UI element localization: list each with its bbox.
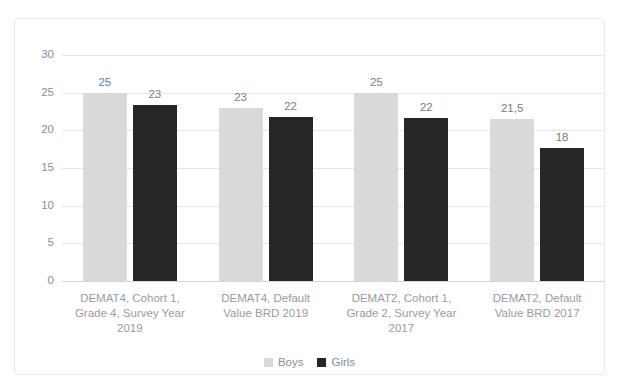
bar-value-label: 23 <box>133 89 177 101</box>
x-axis-category-line: DEMAT4, Cohort 1, <box>54 291 206 306</box>
bar-value-label: 22 <box>269 101 313 113</box>
bar-boys-3 <box>354 93 398 281</box>
axis-baseline <box>62 281 605 282</box>
bar-value-label: 23 <box>219 92 263 104</box>
y-axis-tick-label: 15 <box>24 162 54 174</box>
x-axis-category-line: DEMAT4, Default <box>190 291 342 306</box>
x-axis-category-label: DEMAT4, DefaultValue BRD 2019 <box>190 291 342 321</box>
y-axis-tick-label: 0 <box>24 275 54 287</box>
x-axis-category-line: Grade 4, Survey Year <box>54 306 206 321</box>
legend-item-girls[interactable]: Girls <box>317 356 355 368</box>
y-axis-tick-label: 30 <box>24 49 54 61</box>
y-axis-tick-label: 25 <box>24 87 54 99</box>
x-axis-category-line: Grade 2, Survey Year <box>326 306 478 321</box>
bar-boys-2 <box>219 108 263 281</box>
x-axis-category-line: DEMAT2, Cohort 1, <box>326 291 478 306</box>
legend-swatch-icon <box>317 358 326 367</box>
legend-label: Girls <box>331 356 355 368</box>
gridline <box>62 55 605 56</box>
chart-frame: BoysGirls 0510152025302523DEMAT4, Cohort… <box>14 18 605 375</box>
bar-girls-1 <box>133 105 177 281</box>
x-axis-category-line: Value BRD 2019 <box>190 306 342 321</box>
bar-girls-4 <box>540 148 584 281</box>
bar-value-label: 25 <box>354 77 398 89</box>
bar-value-label: 18 <box>540 132 584 144</box>
chart-legend: BoysGirls <box>15 356 604 368</box>
legend-swatch-icon <box>264 358 273 367</box>
bar-value-label: 25 <box>83 77 127 89</box>
cut-off-title: Vergleich der Mittelwerte DEMAT4 und DEM… <box>0 0 619 9</box>
x-axis-category-line: Value BRD 2017 <box>461 306 613 321</box>
y-axis-tick-label: 5 <box>24 237 54 249</box>
x-axis-category-line: 2017 <box>326 321 478 336</box>
x-axis-category-line: DEMAT2, Default <box>461 291 613 306</box>
bar-value-label: 22 <box>404 102 448 114</box>
x-axis-category-label: DEMAT2, Cohort 1,Grade 2, Survey Year201… <box>326 291 478 336</box>
y-axis-tick-label: 10 <box>24 200 54 212</box>
x-axis-category-label: DEMAT2, DefaultValue BRD 2017 <box>461 291 613 321</box>
bar-girls-2 <box>269 117 313 281</box>
legend-label: Boys <box>278 356 304 368</box>
bar-boys-1 <box>83 93 127 281</box>
legend-item-boys[interactable]: Boys <box>264 356 304 368</box>
y-axis-tick-label: 20 <box>24 124 54 136</box>
bar-value-label: 21,5 <box>490 103 534 115</box>
bar-boys-4 <box>490 119 534 281</box>
bar-girls-3 <box>404 118 448 281</box>
x-axis-category-line: 2019 <box>54 321 206 336</box>
x-axis-category-label: DEMAT4, Cohort 1,Grade 4, Survey Year201… <box>54 291 206 336</box>
